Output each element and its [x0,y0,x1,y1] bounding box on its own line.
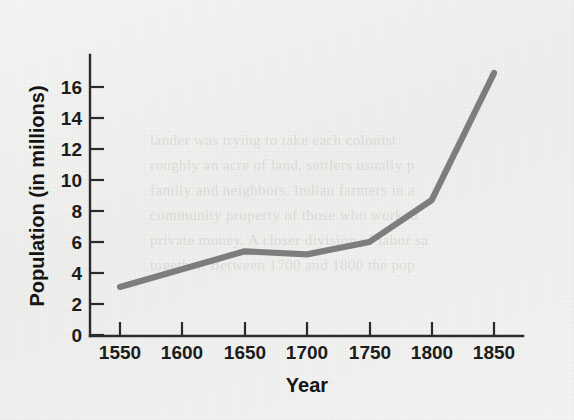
x-tick-label-1850: 1850 [473,342,515,363]
y-axis-title: Population (in millions) [26,85,48,306]
y-tick-label-0: 0 [71,325,82,346]
x-tick-label-1800: 1800 [411,342,453,363]
y-tick-label-14: 14 [61,108,83,129]
figure-container: lander was trying to take each colonist … [0,0,574,420]
y-tick-label-12: 12 [61,139,82,160]
x-tick-label-1750: 1750 [349,342,391,363]
y-tick-label-16: 16 [61,77,82,98]
y-axis-ticks [90,87,104,335]
population-line-chart: 0 2 4 6 8 10 12 14 16 1550 1600 1650 170… [0,0,574,420]
y-tick-label-8: 8 [71,201,82,222]
x-tick-label-1650: 1650 [224,342,266,363]
x-tick-label-1550: 1550 [99,342,141,363]
y-tick-label-4: 4 [71,263,82,284]
x-tick-label-1600: 1600 [161,342,203,363]
x-axis-title: Year [286,374,328,396]
population-data-line [120,73,494,287]
y-tick-label-6: 6 [71,232,82,253]
y-tick-label-10: 10 [61,170,82,191]
x-axis-ticks [120,322,494,336]
x-tick-label-1700: 1700 [286,342,328,363]
y-tick-label-2: 2 [71,294,82,315]
